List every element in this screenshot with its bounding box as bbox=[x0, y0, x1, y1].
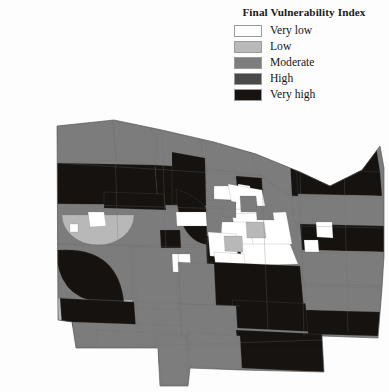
map-region[interactable] bbox=[298, 194, 384, 226]
map-region[interactable] bbox=[344, 146, 366, 164]
map-region[interactable] bbox=[160, 230, 181, 248]
map-region[interactable] bbox=[178, 262, 216, 306]
map-region[interactable] bbox=[104, 192, 166, 210]
map-region[interactable] bbox=[306, 310, 380, 336]
map-region[interactable] bbox=[304, 148, 321, 162]
map-legend: Final Vulnerability Index Very lowLowMod… bbox=[222, 6, 386, 103]
map-region[interactable] bbox=[294, 148, 322, 168]
legend-row[interactable]: Moderate bbox=[234, 55, 386, 71]
legend-title: Final Vulnerability Index bbox=[222, 6, 386, 18]
legend-swatch-moderate bbox=[234, 57, 262, 69]
map-region[interactable] bbox=[57, 121, 117, 163]
map-region[interactable] bbox=[300, 120, 380, 176]
map-region[interactable] bbox=[88, 212, 106, 227]
map-region[interactable] bbox=[304, 240, 319, 252]
legend-row[interactable]: High bbox=[234, 71, 386, 87]
map-region[interactable] bbox=[176, 212, 207, 226]
map-region[interactable] bbox=[302, 250, 384, 286]
map-region[interactable] bbox=[246, 222, 266, 238]
map-region[interactable] bbox=[316, 222, 333, 238]
map-region[interactable] bbox=[232, 300, 318, 332]
vulnerability-index-figure: Final Vulnerability Index Very lowLowMod… bbox=[0, 0, 389, 392]
legend-row[interactable]: Low bbox=[234, 39, 386, 55]
map-region[interactable] bbox=[224, 236, 243, 252]
map-region[interactable] bbox=[240, 244, 298, 266]
map-region[interactable] bbox=[304, 284, 382, 312]
legend-row[interactable]: Very high bbox=[234, 87, 386, 103]
map-region[interactable] bbox=[296, 168, 382, 196]
legend-label: Very low bbox=[270, 25, 312, 37]
legend-swatch-very-high bbox=[234, 89, 262, 101]
legend-swatch-high bbox=[234, 73, 262, 85]
map-region[interactable] bbox=[132, 246, 178, 310]
legend-items: Very lowLowModerateHighVery high bbox=[234, 23, 386, 103]
map-region[interactable] bbox=[236, 330, 324, 372]
map-region[interactable] bbox=[70, 224, 78, 232]
legend-swatch-very-low bbox=[234, 25, 262, 37]
legend-row[interactable]: Very low bbox=[234, 23, 386, 39]
legend-label: Moderate bbox=[270, 57, 314, 69]
map-region[interactable] bbox=[188, 332, 242, 370]
legend-label: Very high bbox=[270, 89, 315, 101]
map-region[interactable] bbox=[256, 206, 274, 220]
legend-label: Low bbox=[270, 41, 291, 53]
legend-swatch-low bbox=[234, 41, 262, 53]
legend-label: High bbox=[270, 73, 293, 85]
